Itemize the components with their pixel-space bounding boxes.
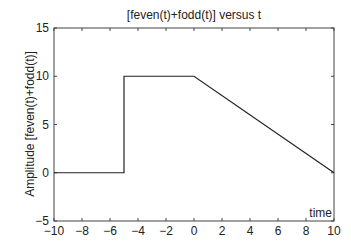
axes-frame — [54, 28, 334, 221]
y-tick-label: 15 — [36, 21, 50, 35]
x-tick-label: 0 — [191, 224, 198, 238]
chart-title: [feven(t)+fodd(t)] versus t — [54, 8, 334, 22]
x-tick-label: 10 — [327, 224, 341, 238]
series-line — [54, 76, 334, 173]
chart: [feven(t)+fodd(t)] versus t Amplitude [f… — [0, 0, 351, 248]
x-tick-label: −8 — [75, 224, 89, 238]
x-tick-label: −6 — [103, 224, 117, 238]
x-tick-label: 8 — [303, 224, 310, 238]
y-axis-label: Amplitude [feven(t)+fodd(t)] — [23, 51, 37, 197]
y-tick-label: −5 — [35, 214, 49, 228]
y-tick-label: 5 — [42, 118, 49, 132]
y-tick-label: 0 — [42, 166, 49, 180]
x-tick-label: 2 — [219, 224, 226, 238]
x-tick-label: 6 — [275, 224, 282, 238]
x-tick-label: −4 — [131, 224, 145, 238]
plot-area: −10−8−6−4−20246810−5051015 — [0, 0, 351, 248]
x-axis-label: time — [309, 206, 332, 220]
y-tick-label: 10 — [36, 69, 50, 83]
x-tick-label: 4 — [247, 224, 254, 238]
x-tick-label: −2 — [159, 224, 173, 238]
